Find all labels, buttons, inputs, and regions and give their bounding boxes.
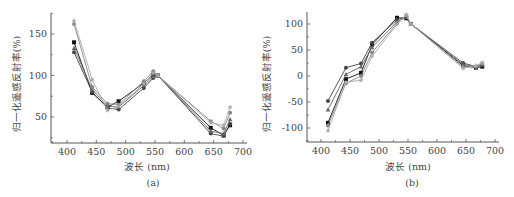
series-line-s1 — [328, 18, 482, 123]
chart-panel-b: 400450500550600650700-100-50050100 波长 (n… — [261, 12, 504, 188]
y-tick-label: 50 — [291, 44, 303, 55]
x-tick-label: 700 — [486, 145, 504, 156]
data-point-marker — [326, 107, 331, 111]
x-tick-label: 450 — [87, 146, 105, 157]
x-axis-title-a: 波长 (nm) — [124, 161, 170, 172]
data-point-marker — [72, 40, 76, 44]
data-point-marker — [325, 128, 330, 133]
y-tick-label: 50 — [35, 111, 47, 122]
x-tick-label: 400 — [312, 145, 330, 156]
plot-area-b: 400450500550600650700-100-50050100 — [282, 12, 504, 156]
x-tick-label: 450 — [341, 145, 359, 156]
data-point-marker — [359, 78, 364, 83]
x-tick-label: 500 — [370, 145, 388, 156]
data-point-marker — [370, 41, 374, 45]
y-tick-label: 150 — [29, 28, 47, 39]
plot-area-a: 40045050055060065070050100150 — [29, 13, 252, 157]
x-tick-label: 650 — [205, 146, 223, 157]
series-line-s5 — [328, 15, 482, 131]
y-axis-title-b: 归一化遥感反射率(%) — [261, 36, 272, 132]
y-tick-label: 100 — [285, 18, 303, 29]
y-tick-label: 0 — [297, 70, 303, 81]
data-point-marker — [90, 85, 94, 89]
y-axis-title-a: 归一化遥感反射率(%) — [11, 36, 22, 132]
x-tick-label: 600 — [428, 145, 446, 156]
data-point-marker — [344, 66, 348, 70]
y-tick-label: -50 — [288, 96, 303, 107]
figure-canvas: 40045050055060065070050100150 波长 (nm) 归一… — [0, 0, 514, 197]
x-tick-label: 550 — [399, 145, 417, 156]
series-line-s1 — [74, 42, 230, 135]
series-line-s2 — [328, 17, 482, 101]
chart-panel-a: 40045050055060065070050100150 波长 (nm) 归一… — [11, 13, 252, 188]
x-tick-label: 700 — [234, 146, 252, 157]
y-tick-label: 100 — [29, 70, 47, 81]
series-line-s4 — [328, 15, 482, 125]
data-point-marker — [228, 104, 233, 109]
figure: 40045050055060065070050100150 波长 (nm) 归一… — [0, 0, 514, 197]
data-point-marker — [344, 72, 349, 76]
panel-label-a: (a) — [146, 177, 159, 188]
y-tick-label: -100 — [282, 122, 303, 133]
x-axis-title-b: 波长 (nm) — [385, 161, 431, 172]
panel-label-b: (b) — [405, 177, 419, 188]
x-tick-label: 550 — [146, 146, 164, 157]
x-tick-label: 500 — [117, 146, 135, 157]
x-tick-label: 650 — [457, 145, 475, 156]
x-tick-label: 600 — [175, 146, 193, 157]
data-point-marker — [105, 102, 109, 106]
data-point-marker — [326, 99, 330, 103]
data-point-marker — [359, 64, 364, 68]
x-tick-label: 400 — [58, 146, 76, 157]
